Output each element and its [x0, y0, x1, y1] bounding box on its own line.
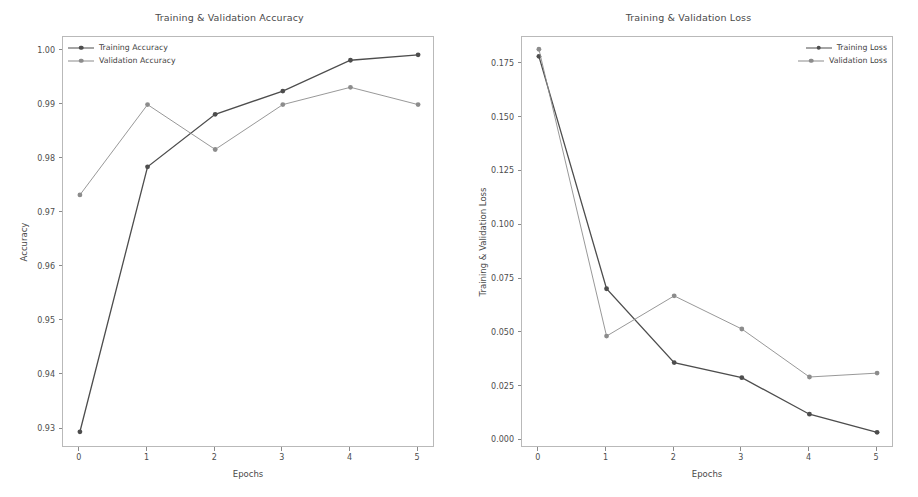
x-axis-tick-mark: [146, 447, 147, 451]
y-axis-tick-mark: [59, 319, 63, 320]
y-axis-tick-mark: [518, 62, 522, 63]
y-axis-tick-mark: [518, 278, 522, 279]
x-axis-tick-label: 0: [535, 453, 540, 462]
y-axis-tick-mark: [518, 385, 522, 386]
series-marker: [213, 147, 218, 152]
y-axis-tick-mark: [59, 428, 63, 429]
series-marker: [348, 85, 353, 90]
series-marker: [739, 327, 744, 332]
x-axis-tick-label: 2: [671, 453, 676, 462]
series-marker: [78, 193, 83, 198]
y-axis-tick-label: 0.93: [37, 424, 55, 433]
series-marker: [145, 164, 150, 169]
series-marker: [875, 430, 880, 435]
x-axis-tick-label: 0: [76, 453, 81, 462]
series-marker: [280, 102, 285, 107]
series-marker: [416, 52, 421, 57]
x-axis-label: Epochs: [233, 469, 263, 479]
y-axis-tick-label: 0.050: [491, 327, 514, 336]
legend-swatch-icon: [68, 43, 94, 53]
series-marker: [348, 58, 353, 63]
y-axis-tick-label: 0.075: [491, 274, 514, 283]
series-line: [539, 49, 877, 377]
series-marker: [807, 375, 812, 380]
y-axis-tick-mark: [518, 439, 522, 440]
y-axis-tick-mark: [59, 103, 63, 104]
y-axis-tick-mark: [518, 116, 522, 117]
series-marker: [672, 293, 677, 298]
series-marker: [213, 112, 218, 117]
series-marker: [739, 375, 744, 380]
x-axis-tick-mark: [876, 447, 877, 451]
legend-swatch-icon: [806, 43, 832, 53]
x-axis-tick-label: 4: [806, 453, 811, 462]
x-axis-tick-label: 3: [738, 453, 743, 462]
y-axis-tick-mark: [59, 265, 63, 266]
loss-plot-area: [521, 36, 893, 447]
x-axis-tick-mark: [740, 447, 741, 451]
y-axis-tick-label: 0.100: [491, 220, 514, 229]
x-axis-tick-label: 5: [874, 453, 879, 462]
x-axis-tick-mark: [537, 447, 538, 451]
x-axis-tick-label: 1: [603, 453, 608, 462]
legend-swatch-icon: [68, 56, 94, 66]
y-axis-tick-label: 0.025: [491, 381, 514, 390]
x-axis-tick-mark: [78, 447, 79, 451]
y-axis-tick-label: 0.94: [37, 369, 55, 378]
y-axis-tick-label: 0.125: [491, 166, 514, 175]
series-marker: [604, 334, 609, 339]
legend-label: Validation Loss: [829, 57, 887, 65]
x-axis-tick-label: 2: [212, 453, 217, 462]
x-axis-label: Epochs: [692, 469, 722, 479]
legend-label: Training Loss: [837, 44, 887, 52]
y-axis-label: Accuracy: [19, 222, 29, 261]
x-axis-tick-label: 3: [279, 453, 284, 462]
series-marker: [604, 286, 609, 291]
x-axis-tick-mark: [214, 447, 215, 451]
loss-chart-panel: Training & Validation Loss 0.0000.0250.0…: [459, 0, 918, 497]
y-axis-tick-label: 0.175: [491, 58, 514, 67]
legend-item[interactable]: Training Loss: [798, 41, 887, 54]
y-axis-tick-mark: [518, 170, 522, 171]
legend-item[interactable]: Validation Accuracy: [68, 54, 176, 67]
series-marker: [672, 360, 677, 365]
plot-lines: [63, 37, 435, 448]
x-axis-tick-mark: [349, 447, 350, 451]
series-marker: [280, 89, 285, 94]
series-marker: [416, 102, 421, 107]
series-marker: [807, 412, 812, 417]
legend-label: Training Accuracy: [99, 44, 168, 52]
y-axis-tick-label: 0.150: [491, 112, 514, 121]
y-axis-tick-mark: [518, 331, 522, 332]
accuracy-plot-area: [62, 36, 434, 447]
y-axis-tick-mark: [518, 224, 522, 225]
chart-legend: Training AccuracyValidation Accuracy: [68, 41, 176, 67]
legend-swatch-icon: [798, 56, 824, 66]
y-axis-tick-label: 0.95: [37, 315, 55, 324]
series-line: [80, 55, 418, 432]
series-marker: [78, 429, 83, 434]
y-axis-tick-label: 0.99: [37, 99, 55, 108]
series-marker: [537, 47, 542, 52]
y-axis-label: Training & Validation Loss: [478, 187, 488, 296]
legend-item[interactable]: Training Accuracy: [68, 41, 176, 54]
x-axis-tick-mark: [605, 447, 606, 451]
series-line: [80, 87, 418, 195]
accuracy-chart-panel: Training & Validation Accuracy 0.930.940…: [0, 0, 459, 497]
y-axis-tick-mark: [59, 157, 63, 158]
y-axis-tick-label: 1.00: [37, 45, 55, 54]
y-axis-tick-mark: [59, 373, 63, 374]
x-axis-tick-mark: [281, 447, 282, 451]
y-axis-tick-mark: [59, 211, 63, 212]
legend-item[interactable]: Validation Loss: [798, 54, 887, 67]
x-axis-tick-mark: [808, 447, 809, 451]
x-axis-tick-label: 5: [415, 453, 420, 462]
chart-title-loss: Training & Validation Loss: [459, 12, 918, 23]
y-axis-tick-label: 0.98: [37, 153, 55, 162]
x-axis-tick-label: 4: [347, 453, 352, 462]
y-axis-tick-label: 0.96: [37, 261, 55, 270]
y-axis-tick-mark: [59, 49, 63, 50]
chart-title-accuracy: Training & Validation Accuracy: [0, 12, 459, 23]
figure-canvas: Training & Validation Accuracy 0.930.940…: [0, 0, 918, 497]
x-axis-tick-mark: [417, 447, 418, 451]
